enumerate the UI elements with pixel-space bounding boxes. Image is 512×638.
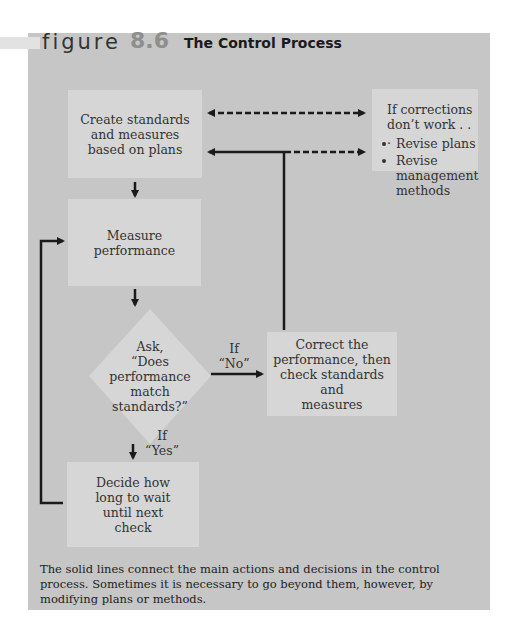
fail-list: Revise plans Revise management methods xyxy=(376,136,478,200)
node-text-line: “Does xyxy=(89,354,211,369)
node-measure-performance: Measure performance xyxy=(68,199,201,286)
node-decision: Ask, “Does performance match standards?” xyxy=(89,339,211,414)
node-text-line: Ask, xyxy=(89,339,211,354)
node-create-standards: Create standards and measures based on p… xyxy=(68,90,202,178)
edge-label-line: If xyxy=(214,341,254,356)
node-text-line: long to wait xyxy=(95,490,170,505)
node-correct-performance: Correct the performance, then check stan… xyxy=(267,332,397,416)
node-text-line: measures xyxy=(267,397,397,412)
edge-label-line: “Yes” xyxy=(140,443,184,458)
node-text-line: performance xyxy=(94,243,175,258)
fail-list-item: Revise plans xyxy=(376,136,478,151)
arrow-correct-to-standards xyxy=(209,152,284,330)
edge-label-no: If “No” xyxy=(214,341,254,371)
figure-caption: The solid lines connect the main actions… xyxy=(40,562,480,607)
node-text-line: until next xyxy=(95,505,170,520)
node-text-line: performance xyxy=(89,369,211,384)
node-text-line: based on plans xyxy=(80,142,190,157)
node-decide-wait: Decide how long to wait until next check xyxy=(67,462,199,547)
node-text-line: match xyxy=(89,384,211,399)
node-text-line: performance, then xyxy=(267,352,397,367)
node-if-corrections-fail: If corrections don’t work . . . Revise p… xyxy=(372,89,478,171)
edge-label-line: If xyxy=(140,428,184,443)
node-text-line: Correct the xyxy=(267,337,397,352)
node-text-line: check xyxy=(95,520,170,535)
node-text-line: standards?” xyxy=(89,399,211,414)
arrow-decide-to-measure xyxy=(41,241,63,503)
node-text-line: check standards and xyxy=(267,367,397,397)
edge-label-line: “No” xyxy=(214,356,254,371)
node-text-line: If corrections xyxy=(387,102,478,117)
edge-label-yes: If “Yes” xyxy=(140,428,184,458)
node-text-line: Create standards xyxy=(80,112,190,127)
node-text-line: and measures xyxy=(80,127,190,142)
node-text-line: Measure xyxy=(94,228,175,243)
node-text-line: Decide how xyxy=(95,475,170,490)
fail-list-item: Revise management methods xyxy=(376,153,478,198)
